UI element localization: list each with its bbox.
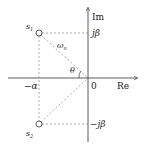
pole-diagram: Im Re 0 jβ −jβ −α θ ωn s1 s2 <box>0 0 145 149</box>
imag-pos-label: jβ <box>90 28 100 38</box>
real-neg-label: −α <box>24 81 38 91</box>
angle-label: θ <box>70 66 75 75</box>
imag-axis-label: Im <box>92 12 105 22</box>
pole-s1 <box>36 30 42 36</box>
pole-s2 <box>36 121 42 127</box>
real-axis-label: Re <box>117 81 129 91</box>
pole-s2-label: s2 <box>26 129 33 139</box>
angle-arc <box>79 71 81 78</box>
origin-label: 0 <box>91 81 97 91</box>
radius-label: ωn <box>57 41 67 51</box>
radius-s2 <box>41 78 88 122</box>
pole-s1-label: s1 <box>26 22 33 32</box>
imag-neg-label: −jβ <box>90 119 106 129</box>
